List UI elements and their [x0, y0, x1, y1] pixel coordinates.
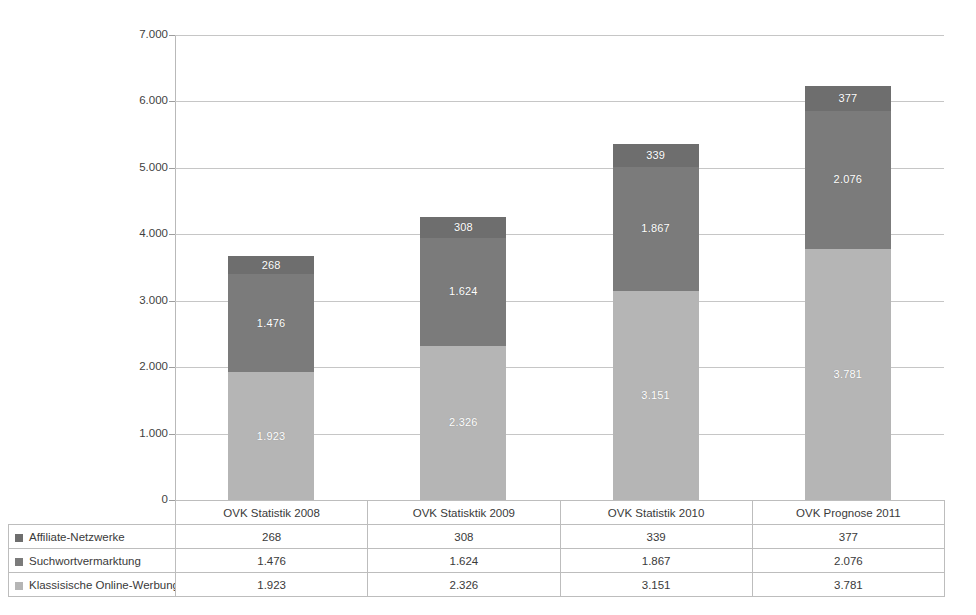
table-header-row: OVK Statistik 2008OVK Statisktik 2009OVK… — [9, 501, 945, 525]
plot-area: 2681.4761.9233081.6242.3263391.8673.1513… — [175, 35, 944, 500]
y-axis-tick-label: 1.000 — [108, 428, 168, 440]
legend-entry[interactable]: Affiliate-Netzwerke — [9, 525, 176, 549]
y-axis-tick-label: 6.000 — [108, 96, 168, 108]
bar-segment[interactable]: 339 — [613, 144, 699, 167]
legend-entry[interactable]: Klassisische Online-Werbung — [9, 573, 176, 597]
table-row: Suchwortvermarktung1.4761.6241.8672.076 — [9, 549, 945, 573]
bar-group: 3391.8673.151 — [560, 35, 752, 500]
bar-stack[interactable]: 3081.6242.326 — [420, 217, 506, 500]
data-table: OVK Statistik 2008OVK Statisktik 2009OVK… — [8, 500, 945, 597]
legend-swatch-icon — [15, 534, 23, 542]
table-cell-value: 1.923 — [176, 573, 368, 597]
bar-segment[interactable]: 2.076 — [805, 111, 891, 249]
data-table-body: Affiliate-Netzwerke268308339377Suchwortv… — [9, 525, 945, 597]
bar-segment[interactable]: 3.151 — [613, 291, 699, 500]
y-axis-tick-label: 7.000 — [108, 29, 168, 41]
bar-segment[interactable]: 1.923 — [228, 372, 314, 500]
table-cell-value: 3.781 — [752, 573, 944, 597]
table-cell-value: 268 — [176, 525, 368, 549]
data-table-wrapper: OVK Statistik 2008OVK Statisktik 2009OVK… — [8, 500, 944, 597]
bar-value-label: 1.867 — [641, 223, 670, 234]
table-cell-value: 1.624 — [368, 549, 560, 573]
bar-value-label: 268 — [262, 260, 281, 271]
bar-value-label: 2.076 — [834, 174, 863, 185]
bar-stack[interactable]: 2681.4761.923 — [228, 256, 314, 500]
y-axis: 7.0006.0005.0004.0003.0002.0001.0000 — [100, 35, 168, 500]
table-column-header: OVK Statistik 2010 — [560, 501, 752, 525]
table-cell-value: 308 — [368, 525, 560, 549]
bar-segment[interactable]: 377 — [805, 86, 891, 111]
legend-entry[interactable]: Suchwortvermarktung — [9, 549, 176, 573]
table-row: Klassisische Online-Werbung1.9232.3263.1… — [9, 573, 945, 597]
y-axis-tick-label: 4.000 — [108, 229, 168, 241]
table-cell-value: 1.476 — [176, 549, 368, 573]
bar-value-label: 308 — [454, 222, 473, 233]
bar-series-layer: 2681.4761.9233081.6242.3263391.8673.1513… — [175, 35, 944, 500]
y-axis-tick-label: 2.000 — [108, 361, 168, 373]
data-table-head: OVK Statistik 2008OVK Statisktik 2009OVK… — [9, 501, 945, 525]
bar-group: 3081.6242.326 — [367, 35, 559, 500]
bar-value-label: 339 — [646, 150, 665, 161]
bar-segment[interactable]: 1.624 — [420, 238, 506, 346]
table-cell-value: 3.151 — [560, 573, 752, 597]
bar-value-label: 3.781 — [834, 369, 863, 380]
table-column-header: OVK Prognose 2011 — [752, 501, 944, 525]
chart-figure: 7.0006.0005.0004.0003.0002.0001.0000 268… — [0, 0, 976, 615]
bar-segment[interactable]: 3.781 — [805, 249, 891, 500]
legend-label: Klassisische Online-Werbung — [29, 579, 176, 591]
bar-value-label: 1.476 — [257, 318, 286, 329]
bar-value-label: 1.923 — [257, 431, 286, 442]
bar-value-label: 1.624 — [449, 286, 478, 297]
bar-segment[interactable]: 1.867 — [613, 167, 699, 291]
bar-segment[interactable]: 1.476 — [228, 274, 314, 372]
table-corner-cell — [9, 501, 176, 525]
table-row: Affiliate-Netzwerke268308339377 — [9, 525, 945, 549]
bar-stack[interactable]: 3391.8673.151 — [613, 144, 699, 500]
table-cell-value: 2.076 — [752, 549, 944, 573]
bar-group: 2681.4761.923 — [175, 35, 367, 500]
table-column-header: OVK Statistik 2008 — [176, 501, 368, 525]
bar-value-label: 3.151 — [641, 390, 670, 401]
y-axis-tick-label: 5.000 — [108, 162, 168, 174]
table-cell-value: 339 — [560, 525, 752, 549]
bar-segment[interactable]: 268 — [228, 256, 314, 274]
legend-label: Affiliate-Netzwerke — [29, 531, 125, 543]
bar-value-label: 377 — [838, 93, 857, 104]
bar-stack[interactable]: 3772.0763.781 — [805, 86, 891, 500]
bar-group: 3772.0763.781 — [752, 35, 944, 500]
legend-label: Suchwortvermarktung — [29, 555, 141, 567]
bar-segment[interactable]: 308 — [420, 217, 506, 237]
table-cell-value: 1.867 — [560, 549, 752, 573]
table-column-header: OVK Statisktik 2009 — [368, 501, 560, 525]
bar-value-label: 2.326 — [449, 417, 478, 428]
table-cell-value: 377 — [752, 525, 944, 549]
bar-segment[interactable]: 2.326 — [420, 346, 506, 501]
y-axis-tick-label: 3.000 — [108, 295, 168, 307]
legend-swatch-icon — [15, 582, 23, 590]
legend-swatch-icon — [15, 558, 23, 566]
table-cell-value: 2.326 — [368, 573, 560, 597]
